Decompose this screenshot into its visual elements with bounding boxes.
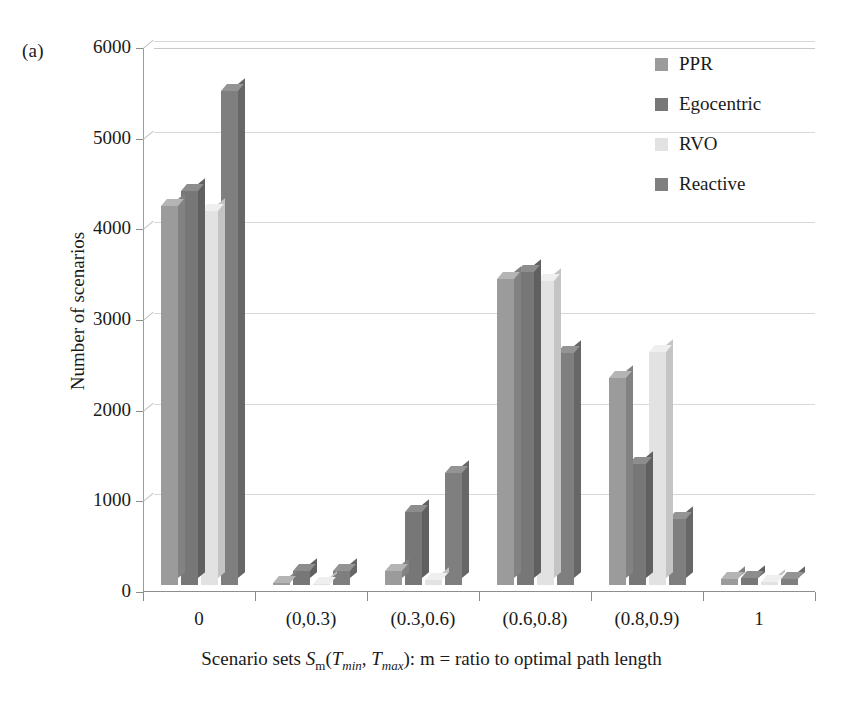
x-axis-tick-label: (0.3,0.6) <box>391 608 456 630</box>
y-axis-tick <box>136 592 143 593</box>
bar <box>273 583 290 585</box>
bar <box>405 512 422 585</box>
bar-face <box>761 582 778 585</box>
x-axis-title: Scenario sets Sm(Tmin, Tmax): m = ratio … <box>0 648 863 674</box>
y-axis-tick <box>136 48 143 49</box>
x-axis-tick <box>143 592 144 601</box>
bar <box>761 582 778 585</box>
y-axis-tick <box>136 320 143 321</box>
bar <box>161 206 178 585</box>
figure-panel: (a) Number of scenarios 0100020003000400… <box>0 0 863 709</box>
legend-item-label: Egocentric <box>679 93 761 115</box>
x-axis-tick <box>815 592 816 601</box>
x-axis-tick-label: (0,0.3) <box>286 608 337 630</box>
bar-face <box>161 206 178 585</box>
gridline <box>154 404 815 405</box>
gridline <box>154 494 815 495</box>
x-axis-tick <box>703 592 704 601</box>
legend-item-reactive[interactable]: Reactive <box>655 164 855 204</box>
bar-side <box>514 267 521 578</box>
y-axis-tick <box>136 501 143 502</box>
legend: PPREgocentricRVOReactive <box>655 44 855 204</box>
bar-face <box>405 512 422 585</box>
bar-face <box>721 579 738 585</box>
bar <box>741 578 758 585</box>
x-axis-tick <box>479 592 480 601</box>
x-axis-tick-label: 0 <box>194 608 204 630</box>
bar-side <box>574 340 581 578</box>
x-axis-title-s: S <box>306 648 316 669</box>
legend-item-egocentric[interactable]: Egocentric <box>655 84 855 124</box>
x-axis-tick-label: 1 <box>754 608 764 630</box>
bar-face <box>609 378 626 585</box>
y-axis-tick-label: 2000 <box>93 399 131 421</box>
bar-side <box>178 193 185 578</box>
bar <box>385 571 402 585</box>
bar-side <box>626 365 633 578</box>
y-axis-tick-label: 3000 <box>93 308 131 330</box>
legend-swatch-icon <box>655 138 668 151</box>
bar-face <box>385 571 402 585</box>
bar-side <box>646 451 653 578</box>
x-axis-tick <box>591 592 592 601</box>
legend-item-rvo[interactable]: RVO <box>655 124 855 164</box>
bar-face <box>425 580 442 585</box>
legend-item-ppr[interactable]: PPR <box>655 44 855 84</box>
x-axis-tick-label: (0.6,0.8) <box>503 608 568 630</box>
x-axis-tick <box>367 592 368 601</box>
bar-side <box>238 78 245 578</box>
y-axis-tick <box>136 411 143 412</box>
y-axis-tick-label: 6000 <box>93 36 131 58</box>
bar <box>425 580 442 585</box>
gridline <box>154 222 815 223</box>
panel-label: (a) <box>22 40 44 62</box>
bar-side <box>218 199 225 578</box>
bar-side <box>534 259 541 578</box>
legend-item-label: Reactive <box>679 173 745 195</box>
x-axis-title-t2: T <box>371 648 382 669</box>
gridline <box>154 41 815 42</box>
x-axis-title-comma: , <box>362 648 372 669</box>
bar-side <box>554 268 561 578</box>
y-axis-tick-label: 5000 <box>93 127 131 149</box>
y-axis-tick-label: 1000 <box>93 490 131 512</box>
bar-face <box>741 578 758 585</box>
bar <box>721 579 738 585</box>
gridline-depth-edge <box>143 312 154 321</box>
gridline-depth-edge <box>143 221 154 230</box>
y-axis-title: Number of scenarios <box>67 161 89 461</box>
bar-face <box>313 584 330 586</box>
y-axis-tick-label: 0 <box>122 580 132 602</box>
x-axis-title-lead: Scenario sets <box>201 648 305 669</box>
bar-side <box>198 178 205 578</box>
gridline-depth-edge <box>143 402 154 411</box>
bar <box>781 579 798 585</box>
bar-side <box>666 339 673 578</box>
x-axis-tick <box>255 592 256 601</box>
bar <box>313 584 330 586</box>
y-axis-tick-label: 4000 <box>93 218 131 240</box>
x-axis-title-t2-sub: max <box>382 658 404 673</box>
x-axis-title-s-sub: m <box>315 658 325 673</box>
gridline <box>154 313 815 314</box>
legend-swatch-icon <box>655 58 668 71</box>
legend-swatch-icon <box>655 178 668 191</box>
legend-item-label: RVO <box>679 133 718 155</box>
x-axis-title-t1: T <box>332 648 343 669</box>
bar-face <box>781 579 798 585</box>
bar-face <box>273 583 290 585</box>
x-axis-title-tail: : m = ratio to optimal path length <box>410 648 662 669</box>
x-axis-tick-label: (0.8,0.9) <box>615 608 680 630</box>
bar-face <box>497 279 514 585</box>
y-axis-tick <box>136 229 143 230</box>
legend-swatch-icon <box>655 98 668 111</box>
bar-side <box>462 461 469 578</box>
y-axis-tick <box>136 139 143 140</box>
bar <box>609 378 626 585</box>
bar <box>497 279 514 585</box>
gridline-depth-edge <box>143 493 154 502</box>
gridline-depth-edge <box>143 40 154 49</box>
x-axis-title-t1-sub: min <box>342 658 362 673</box>
legend-item-label: PPR <box>679 53 713 75</box>
gridline-depth-edge <box>143 130 154 139</box>
